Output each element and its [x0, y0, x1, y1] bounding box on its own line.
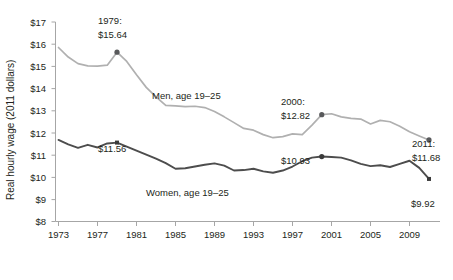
y-tick-10: $10	[30, 172, 46, 183]
wage-line-chart: Real hourly wage (2011 dollars) $17 $16 …	[0, 0, 453, 280]
x-tick-1985: 1985	[165, 229, 186, 240]
x-tick-2001: 2001	[321, 229, 342, 240]
data-point-men-1979	[114, 50, 119, 55]
x-tick-1973: 1973	[48, 229, 69, 240]
x-tick-2005: 2005	[360, 229, 381, 240]
annotation-men-2011: 2011: $11.68	[412, 138, 440, 163]
annotation-women-2000-value: $10.93	[281, 155, 310, 166]
y-tick-12: $12	[30, 128, 46, 139]
series-label-women: Women, age 19–25	[146, 187, 229, 198]
data-point-women-2011	[427, 177, 431, 181]
y-axis-tick-labels: $17 $16 $15 $14 $13 $12 $11 $10 $9 $8	[30, 17, 46, 227]
data-point-women-2000	[319, 154, 324, 159]
y-tick-8: $8	[35, 216, 46, 227]
y-axis-title: Real hourly wage (2011 dollars)	[5, 60, 16, 200]
y-tick-17: $17	[30, 17, 46, 28]
x-axis-tick-labels: 1973 1977 1981 1985 1989 1993 1997 2001 …	[48, 229, 420, 240]
annotation-men-2011-year: 2011:	[412, 138, 435, 149]
y-axis-ticks	[52, 22, 56, 222]
annotation-men-2000-value: $12.82	[281, 110, 310, 121]
y-tick-14: $14	[30, 83, 46, 94]
y-tick-11: $11	[31, 150, 46, 161]
y-tick-15: $15	[30, 61, 46, 72]
series-label-men: Men, age 19–25	[152, 90, 221, 101]
annotation-men-2011-value: $11.68	[412, 152, 440, 163]
y-tick-13: $13	[30, 105, 46, 116]
y-tick-9: $9	[35, 194, 46, 205]
series-line-men	[59, 47, 430, 139]
annotation-women-2011-value: $9.92	[411, 198, 435, 209]
annotation-men-2000-year: 2000:	[281, 96, 305, 107]
x-tick-1989: 1989	[204, 229, 225, 240]
x-axis-ticks	[59, 222, 410, 227]
annotation-women-1979-value: $11.56	[98, 143, 126, 154]
annotation-men-1979-value: $15.64	[98, 29, 127, 40]
chart-container: Real hourly wage (2011 dollars) $17 $16 …	[0, 0, 453, 280]
x-tick-1993: 1993	[243, 229, 264, 240]
annotation-men-1979-year: 1979:	[98, 15, 122, 26]
x-tick-1981: 1981	[126, 229, 147, 240]
x-tick-1977: 1977	[87, 229, 108, 240]
annotation-men-2000: 2000: $12.82	[281, 96, 310, 121]
annotation-men-1979: 1979: $15.64	[98, 15, 127, 40]
y-tick-16: $16	[30, 39, 46, 50]
x-tick-2009: 2009	[399, 229, 420, 240]
data-point-men-2000	[319, 112, 324, 117]
x-tick-1997: 1997	[282, 229, 303, 240]
